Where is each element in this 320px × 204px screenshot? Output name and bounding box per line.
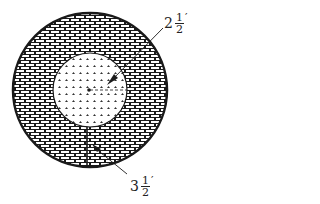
feet-unit: ′ [185,11,188,24]
ring-width-whole: 3 [130,178,139,194]
denominator: 2 [175,24,184,35]
feet-unit: ′ [151,174,154,187]
denominator: 2 [141,187,150,198]
inner-radius-label: 212′ [164,12,187,35]
ring-width-fraction: 12 [141,175,150,198]
inner-radius-whole: 2 [164,15,173,31]
ring-width-label: 312′ [130,175,153,198]
inner-radius-fraction: 12 [175,12,184,35]
